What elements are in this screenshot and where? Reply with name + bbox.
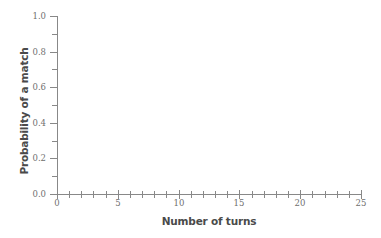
x-axis-tick-label: 15 [234, 199, 245, 208]
x-axis-minor-tick [69, 191, 70, 198]
x-axis-minor-tick [337, 191, 338, 198]
x-axis-minor-tick [288, 191, 289, 198]
y-axis-major-tick [50, 158, 57, 159]
x-axis-minor-tick [312, 191, 313, 198]
x-axis-tick-label: 20 [295, 199, 306, 208]
x-axis-minor-tick [106, 191, 107, 198]
y-axis-minor-tick [52, 105, 57, 106]
x-axis-minor-tick [325, 191, 326, 198]
x-axis-minor-tick [166, 191, 167, 198]
y-axis-major-tick [50, 52, 57, 53]
chart-figure: 0.00.20.40.60.81.0 0510152025 Number of … [0, 0, 381, 238]
x-axis-minor-tick [191, 191, 192, 198]
y-axis-minor-tick [52, 34, 57, 35]
x-axis-minor-tick [154, 191, 155, 198]
y-axis-title: Probability of a match [18, 21, 30, 201]
y-axis-major-tick [50, 16, 57, 17]
x-axis-minor-tick [130, 191, 131, 198]
y-axis-minor-tick [52, 69, 57, 70]
x-axis-tick-label: 0 [54, 199, 59, 208]
x-axis-minor-tick [142, 191, 143, 198]
y-axis-major-tick [50, 123, 57, 124]
x-axis-minor-tick [203, 191, 204, 198]
x-axis-minor-tick [264, 191, 265, 198]
x-axis-title: Number of turns [57, 215, 361, 227]
y-axis-tick-label: 1.0 [16, 12, 46, 21]
x-axis-tick-label: 25 [356, 199, 367, 208]
y-axis-major-tick [50, 194, 57, 195]
y-axis-minor-tick [52, 141, 57, 142]
x-axis-minor-tick [349, 191, 350, 198]
x-axis-minor-tick [276, 191, 277, 198]
x-axis-minor-tick [93, 191, 94, 198]
y-axis-minor-tick [52, 176, 57, 177]
x-axis-minor-tick [227, 191, 228, 198]
x-axis-tick-label: 5 [115, 199, 120, 208]
x-axis-line [57, 194, 361, 195]
plot-area [58, 16, 361, 194]
y-axis-line [57, 16, 58, 195]
x-axis-minor-tick [215, 191, 216, 198]
y-axis-major-tick [50, 87, 57, 88]
x-axis-tick-label: 10 [174, 199, 185, 208]
x-axis-minor-tick [81, 191, 82, 198]
x-axis-minor-tick [252, 191, 253, 198]
